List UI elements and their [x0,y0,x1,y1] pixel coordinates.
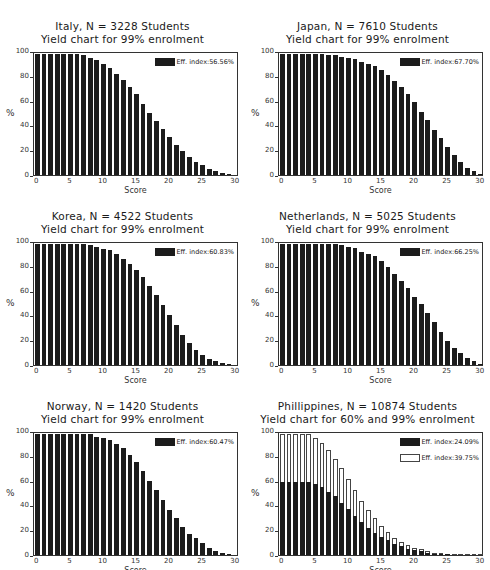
bar-solid [353,516,358,555]
bar-solid [478,174,483,175]
bar-solid [141,471,146,555]
bar-solid [432,130,437,175]
bar-solid [213,361,218,365]
bar-solid [458,353,463,365]
bar-solid [280,482,285,555]
bar-solid [465,358,470,365]
bar-solid [88,58,93,175]
bar-solid [359,522,364,555]
bar-solid [333,496,338,555]
legend-label: Eff. index:66.25% [422,248,479,256]
bar-solid [108,250,113,365]
legend-label: Eff. index:39.75% [422,454,479,462]
bar-solid [121,80,126,175]
legend-swatch-icon [400,454,420,462]
bar-solid [88,245,93,365]
x-tick-label: 30 [227,367,243,375]
bar-solid [339,57,344,175]
bar-solid [174,325,179,365]
x-tick-label: 20 [161,367,177,375]
bar-solid [439,554,444,555]
bar-solid [121,259,126,365]
y-tick-label: 80 [11,262,29,270]
bar-solid [187,343,192,365]
bar-solid [458,162,463,175]
bar-solid [392,544,397,555]
bar-solid [35,434,40,555]
bar-solid [101,64,106,175]
y-tick-label: 40 [11,311,29,319]
bar-solid [412,102,417,175]
bar-solid [306,244,311,365]
bar-solid [194,538,199,555]
bar-solid [128,87,133,175]
x-axis-label: Score [106,566,166,570]
y-tick-label: 0 [11,171,29,179]
bar-solid [386,267,391,365]
legend-swatch-icon [400,438,420,446]
y-axis-label: % [251,108,260,118]
x-tick-label: 10 [339,177,355,185]
x-tick-label: 20 [161,177,177,185]
bar-solid [399,87,404,175]
x-tick-label: 0 [273,367,289,375]
legend-item: Eff. index:66.25% [400,248,479,256]
bar-solid [180,527,185,555]
bar-solid [75,244,80,365]
x-tick-label: 10 [94,557,110,565]
chart-title: Italy, N = 3228 Students [0,20,245,32]
plot-area: Eff. index:24.09%Eff. index:39.75% [278,432,483,556]
bar-solid [346,509,351,555]
x-tick-label: 5 [306,557,322,565]
chart-subtitle: Yield chart for 99% enrolment [245,33,490,45]
bar-solid [326,492,331,555]
legend-item: Eff. index:56.56% [155,58,234,66]
bar-solid [167,315,172,365]
bar-solid [213,551,218,555]
bar-solid [42,434,47,555]
x-tick-label: 5 [61,367,77,375]
x-tick-label: 15 [128,177,144,185]
bar-hollow [478,554,483,555]
bar-solid [174,145,179,176]
bar-solid [293,244,298,365]
x-tick-label: 25 [439,557,455,565]
bar-solid [386,540,391,555]
chart-panel-4: Norway, N = 1420 Students Yield chart fo… [0,380,245,570]
x-tick-label: 10 [339,367,355,375]
bar-solid [147,113,152,175]
bar-solid [320,54,325,175]
bar-solid [392,274,397,366]
bar-solid [48,434,53,555]
bar-solid [101,438,106,555]
bar-solid [94,60,99,175]
bar-solid [326,244,331,365]
bar-hollow [465,554,470,555]
x-tick-label: 5 [61,177,77,185]
bar-solid [366,254,371,365]
bar-solid [432,322,437,365]
bar-solid [399,546,404,555]
bar-solid [207,169,212,175]
bar-solid [293,54,298,175]
x-tick-label: 20 [406,367,422,375]
y-tick-label: 40 [256,121,274,129]
x-tick-label: 25 [439,177,455,185]
x-tick-label: 5 [306,367,322,375]
bar-solid [366,64,371,175]
y-tick-label: 80 [256,262,274,270]
bar-solid [81,244,86,365]
chart-panel-0: Italy, N = 3228 Students Yield chart for… [0,0,245,190]
bar-solid [114,444,119,555]
bar-solid [465,168,470,175]
bar-solid [346,247,351,365]
legend-swatch-icon [155,58,175,66]
x-tick-label: 25 [194,177,210,185]
bar-solid [128,264,133,365]
y-tick-label: 80 [256,452,274,460]
bar-solid [379,537,384,555]
bar-solid [75,434,80,555]
bar-solid [194,162,199,175]
y-tick-label: 0 [256,361,274,369]
bar-solid [220,363,225,365]
